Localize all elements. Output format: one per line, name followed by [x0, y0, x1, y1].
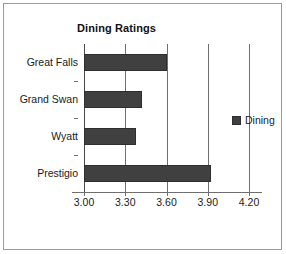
bar-series [84, 44, 249, 192]
bar-row [84, 118, 249, 155]
chart-legend: Dining [232, 114, 275, 126]
category-label-grand-swan: Grand Swan [6, 93, 78, 105]
bar-row [84, 44, 249, 81]
category-label-great-falls: Great Falls [6, 56, 78, 68]
category-tick [74, 118, 78, 119]
category-label-wyatt: Wyatt [6, 130, 78, 142]
category-tick [74, 81, 78, 82]
bar-prestigio [84, 165, 211, 182]
x-tick-label-4.20: 4.20 [229, 196, 269, 208]
x-tick-label-3.60: 3.60 [147, 196, 187, 208]
bar-great-falls [84, 54, 167, 71]
category-label-prestigio: Prestigio [6, 167, 78, 179]
bar-row [84, 155, 249, 192]
x-tick-label-3.90: 3.90 [188, 196, 228, 208]
x-tick-label-3.30: 3.30 [105, 196, 145, 208]
category-axis-labels: Great FallsGrand SwanWyattPrestigio [4, 44, 78, 192]
chart-title: Dining Ratings [4, 22, 229, 34]
category-tick [74, 155, 78, 156]
plot-area [84, 44, 249, 192]
x-tick-label-3.00: 3.00 [64, 196, 104, 208]
chart-frame: Dining Ratings Great FallsGrand SwanWyat… [3, 3, 282, 250]
bar-grand-swan [84, 91, 142, 108]
legend-label: Dining [245, 114, 275, 126]
x-axis-tick-labels: 3.003.303.603.904.20 [4, 196, 286, 212]
bar-row [84, 81, 249, 118]
legend-swatch-icon [232, 116, 241, 125]
bar-wyatt [84, 128, 136, 145]
